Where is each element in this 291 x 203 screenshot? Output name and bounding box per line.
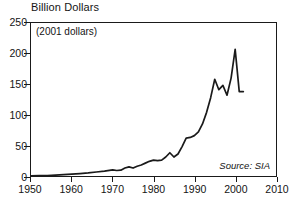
x-tick-label: 1980 — [134, 183, 174, 195]
x-tick-label: 1960 — [51, 183, 91, 195]
x-tick-mark — [277, 177, 278, 182]
x-tick-label: 2010 — [257, 183, 291, 195]
x-tick-mark — [236, 177, 237, 182]
x-axis-labels: 1950196019701980199020002010 — [0, 183, 291, 199]
x-tick-mark — [154, 177, 155, 182]
x-tick-mark — [195, 177, 196, 182]
x-tick-mark — [71, 177, 72, 182]
chart-title: Billion Dollars — [31, 1, 99, 13]
x-tick-label: 1990 — [175, 183, 215, 195]
source-annotation: Source: SIA — [219, 160, 270, 171]
x-tick-mark — [30, 177, 31, 182]
x-tick-label: 2000 — [216, 183, 256, 195]
y-axis-labels: 050100150200250 — [0, 22, 27, 177]
x-tick-label: 1950 — [10, 183, 50, 195]
plot-area: (2001 dollars) Source: SIA — [30, 22, 277, 177]
data-series-line — [31, 23, 276, 176]
chart-figure: Billion Dollars 050100150200250 (2001 do… — [0, 0, 291, 203]
x-tick-mark — [112, 177, 113, 182]
x-tick-label: 1970 — [92, 183, 132, 195]
